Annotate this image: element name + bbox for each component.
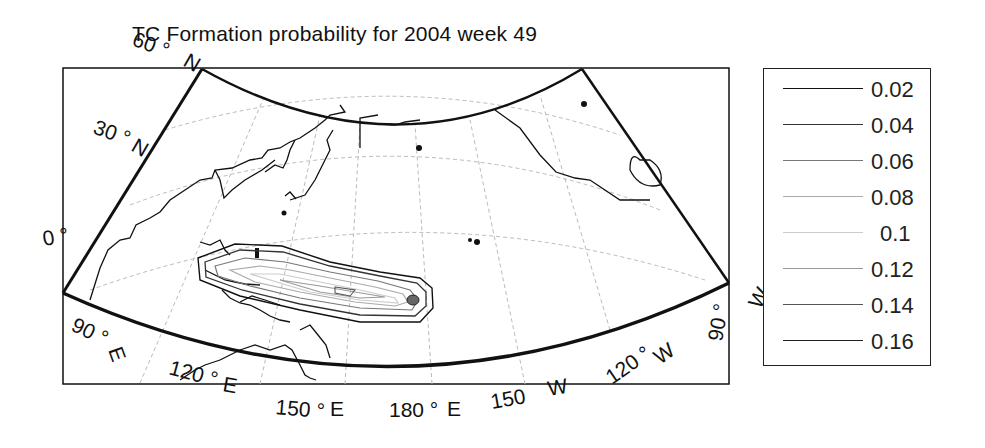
lon-150e-e-label: E — [330, 397, 344, 420]
legend-line-swatch — [783, 196, 863, 197]
lon-120e-label: 120 ° — [167, 356, 221, 391]
legend-line-swatch — [783, 340, 863, 341]
lon-120w-w-label: W — [649, 338, 679, 368]
latitude-labels: 0 ° 30 ° N 60 ° N — [41, 27, 205, 250]
legend-label: 0.12 — [871, 257, 914, 283]
lat-0-label: 0 ° — [41, 223, 71, 250]
contour-0.1 — [250, 274, 398, 303]
contour-0.02 — [198, 244, 433, 322]
legend-label: 0.02 — [871, 77, 914, 103]
lon-150e-label: 150 ° — [275, 395, 326, 422]
legend-item: 0.08 — [764, 179, 930, 215]
lat-60-label: 60 ° — [130, 27, 173, 61]
lat-30-label: 30 ° — [91, 115, 134, 149]
legend-item: 0.14 — [764, 287, 930, 323]
legend-line-swatch — [783, 88, 863, 89]
lon-150w-label: 150 — [489, 384, 528, 413]
legend-label: 0.08 — [871, 185, 914, 211]
lon-90e-e-label: E — [104, 344, 130, 365]
legend-label: 0.04 — [871, 113, 914, 139]
contour-legend: 0.02 0.04 0.06 0.08 0.1 0.12 0.14 0.16 — [763, 68, 931, 366]
legend-line-swatch — [783, 268, 863, 269]
legend-item: 0.04 — [764, 107, 930, 143]
legend-item: 0.16 — [764, 323, 930, 359]
legend-label: 0.06 — [871, 149, 914, 175]
legend-label: 0.14 — [871, 293, 914, 319]
legend-label: 0.16 — [871, 329, 914, 355]
graticule — [90, 95, 705, 384]
legend-line-swatch — [783, 124, 863, 125]
coastlines — [90, 105, 661, 380]
legend-item: 0.1 — [764, 215, 930, 251]
lon-120e-e-label: E — [221, 372, 239, 397]
legend-label: 0.1 — [880, 221, 911, 247]
legend-item: 0.02 — [764, 71, 930, 107]
axes-frame — [63, 68, 729, 384]
legend-line-swatch — [783, 160, 863, 161]
lon-180e-e-label: E — [447, 397, 461, 420]
lon-180e-label: 180 ° — [389, 398, 438, 421]
lon-150w-w-label: W — [546, 374, 570, 400]
legend-line-swatch — [783, 304, 863, 305]
contour-0.16 — [407, 295, 419, 305]
legend-item: 0.06 — [764, 143, 930, 179]
lon-90e-label: 90 ° — [68, 313, 112, 350]
probability-contours — [198, 244, 433, 322]
lon-120w-label: 120 ° — [601, 341, 655, 388]
lon-90w-label: 90 ° — [703, 302, 732, 343]
legend-item: 0.12 — [764, 251, 930, 287]
legend-line-swatch — [783, 232, 863, 233]
